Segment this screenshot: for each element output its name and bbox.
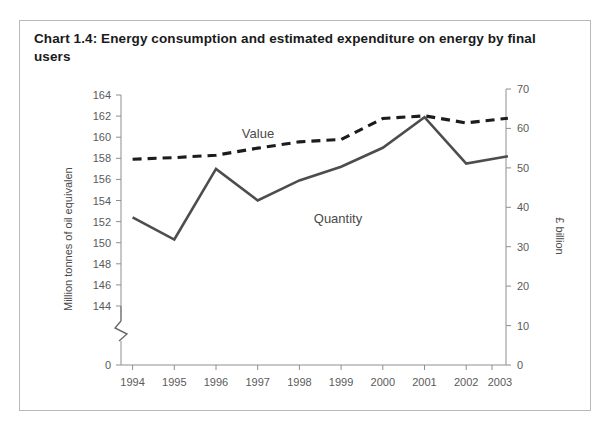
left-tick-label: 162 — [93, 110, 111, 122]
series-label-value: Value — [242, 126, 274, 141]
x-tick-label: 1995 — [162, 376, 186, 388]
x-tick-label: 1996 — [204, 376, 228, 388]
left-tick-label: 158 — [93, 152, 111, 164]
right-tick-label: 70 — [517, 83, 529, 95]
left-axis-title: Million tonnes of oil equivalen — [62, 167, 74, 311]
right-tick-label: 0 — [517, 359, 523, 371]
right-tick-label: 20 — [517, 280, 529, 292]
x-axis: 1994 1995 1996 1997 1998 1999 2000 2001 … — [120, 365, 512, 388]
right-axis: 70 60 50 40 30 20 10 0 £ billion — [506, 83, 566, 371]
x-tick-label: 1994 — [120, 376, 144, 388]
x-tick-label: 2003 — [488, 376, 512, 388]
left-axis: 164 162 160 158 156 154 152 150 148 146 … — [62, 89, 127, 371]
left-tick-label: 148 — [93, 258, 111, 270]
left-tick-label: 150 — [93, 237, 111, 249]
right-tick-label: 50 — [517, 162, 529, 174]
axis-break-icon — [115, 321, 127, 341]
x-tick-label: 2002 — [454, 376, 478, 388]
x-tick-label: 1997 — [245, 376, 269, 388]
left-tick-label: 152 — [93, 216, 111, 228]
right-axis-title: £ billion — [554, 217, 566, 254]
left-tick-label: 154 — [93, 195, 111, 207]
right-tick-label: 40 — [517, 201, 529, 213]
series-line-value — [133, 116, 508, 159]
x-tick-label: 2000 — [371, 376, 395, 388]
left-tick-label: 146 — [93, 279, 111, 291]
series-label-quantity: Quantity — [314, 211, 363, 226]
left-tick-label: 164 — [93, 89, 111, 101]
chart-card: Chart 1.4: Energy consumption and estima… — [19, 20, 591, 411]
right-tick-label: 10 — [517, 320, 529, 332]
right-tick-label: 60 — [517, 122, 529, 134]
x-tick-label: 1998 — [287, 376, 311, 388]
right-tick-label: 30 — [517, 241, 529, 253]
left-tick-label-zero: 0 — [105, 359, 111, 371]
chart-plot: 164 162 160 158 156 154 152 150 148 146 … — [20, 21, 592, 412]
left-tick-label: 144 — [93, 300, 111, 312]
left-tick-label: 160 — [93, 131, 111, 143]
x-tick-label: 1999 — [329, 376, 353, 388]
left-tick-label: 156 — [93, 173, 111, 185]
x-tick-label: 2001 — [412, 376, 436, 388]
